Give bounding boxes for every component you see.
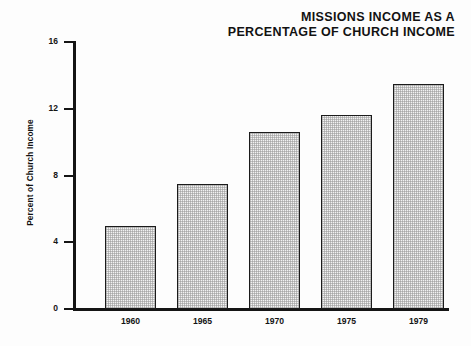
bar-series: 19601965197019751979 <box>0 0 471 346</box>
chart-figure: MISSIONS INCOME AS A PERCENTAGE OF CHURC… <box>0 0 471 346</box>
bar-1975 <box>321 115 372 309</box>
bar-1965 <box>177 184 228 309</box>
x-axis-label-1970: 1970 <box>239 316 310 326</box>
x-axis-label-1975: 1975 <box>311 316 382 326</box>
x-axis-label-1960: 1960 <box>95 316 166 326</box>
bar-1970 <box>249 132 300 309</box>
bar-1979 <box>393 84 444 309</box>
bar-1960 <box>105 226 156 309</box>
x-axis-label-1979: 1979 <box>383 316 454 326</box>
x-axis-label-1965: 1965 <box>167 316 238 326</box>
